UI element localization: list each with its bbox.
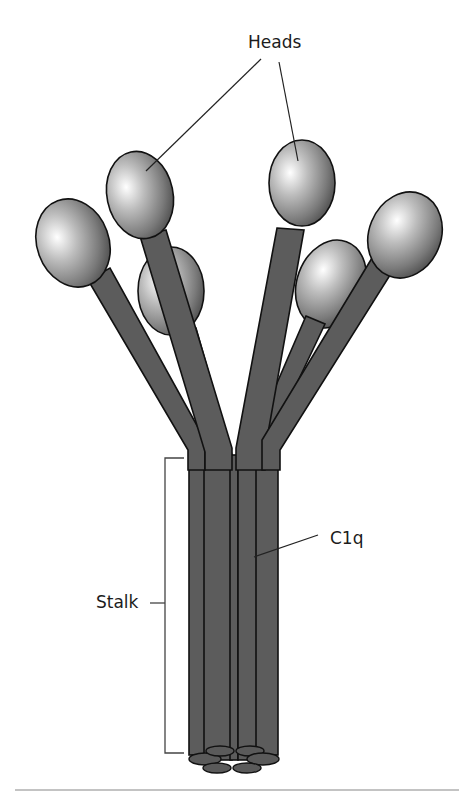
- stalk-label: Stalk: [96, 592, 138, 612]
- stalk-bracket: [150, 458, 184, 753]
- c1q-diagram: [0, 0, 473, 796]
- head-center-right: [269, 140, 335, 226]
- heads-leader-lines: [146, 59, 298, 171]
- stalk-strands: [189, 455, 278, 760]
- head-left: [99, 145, 182, 245]
- c1q-label: C1q: [330, 528, 363, 548]
- heads-label: Heads: [248, 32, 301, 52]
